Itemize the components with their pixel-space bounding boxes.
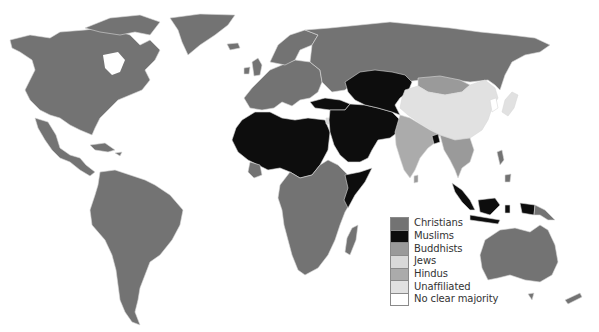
region-north-africa <box>232 112 330 178</box>
legend-item-muslims: Muslims <box>390 230 498 243</box>
legend-label: Unaffiliated <box>414 281 471 293</box>
legend-label: Jews <box>414 255 436 267</box>
region-middle-east <box>329 104 400 162</box>
region-caribbean <box>90 143 122 156</box>
region-iceland <box>227 43 240 50</box>
region-philippines <box>497 150 511 182</box>
region-japan <box>502 92 518 116</box>
legend-item-jews: Jews <box>390 255 498 268</box>
region-turkey <box>310 98 350 110</box>
region-new-zealand <box>565 293 582 304</box>
region-north-america <box>10 28 160 135</box>
legend-item-christians: Christians <box>390 217 498 230</box>
legend-swatch <box>390 268 409 281</box>
region-tasmania <box>528 293 534 300</box>
legend-item-buddhists: Buddhists <box>390 242 498 255</box>
legend-item-hindus: Hindus <box>390 268 498 281</box>
legend-item-unaffiliated: Unaffiliated <box>390 280 498 293</box>
legend-label: No clear majority <box>414 293 498 305</box>
legend-swatch <box>390 230 409 243</box>
region-israel <box>326 118 329 124</box>
region-central-southern-africa <box>278 160 355 275</box>
region-british-isles <box>244 58 262 76</box>
legend-label: Hindus <box>414 268 448 280</box>
region-greenland <box>170 14 235 55</box>
legend-label: Muslims <box>414 230 454 242</box>
legend-swatch <box>390 293 409 306</box>
region-madagascar <box>345 225 358 255</box>
region-papua-new-guinea <box>534 205 555 220</box>
region-south-america <box>90 170 183 325</box>
region-sri-lanka <box>414 175 418 183</box>
legend-label: Buddhists <box>414 243 462 255</box>
legend-swatch <box>390 217 409 230</box>
map-legend: Christians Muslims Buddhists Jews Hindus… <box>390 217 498 306</box>
legend-item-no-clear-majority: No clear majority <box>390 293 498 306</box>
region-southeast-asia <box>440 135 474 178</box>
legend-swatch <box>390 280 409 293</box>
world-religion-map <box>0 0 599 332</box>
legend-swatch <box>390 255 409 268</box>
legend-label: Christians <box>414 217 463 229</box>
legend-swatch <box>390 242 409 255</box>
region-somalia <box>344 168 372 208</box>
